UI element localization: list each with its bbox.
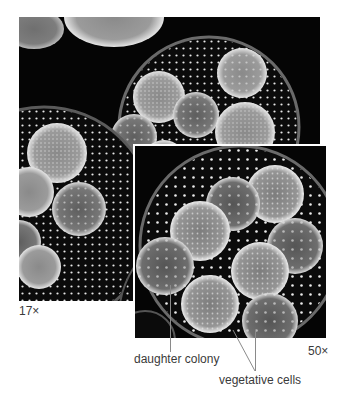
callout-vegetative-cells: vegetative cells xyxy=(219,373,301,387)
volvox-colony-closeup-illustration xyxy=(135,146,326,338)
inset-micrograph-50x xyxy=(133,144,328,340)
callout-daughter-colony: daughter colony xyxy=(134,352,219,366)
magnification-label-50x: 50× xyxy=(308,344,328,358)
magnification-label-17x: 17× xyxy=(19,304,39,318)
